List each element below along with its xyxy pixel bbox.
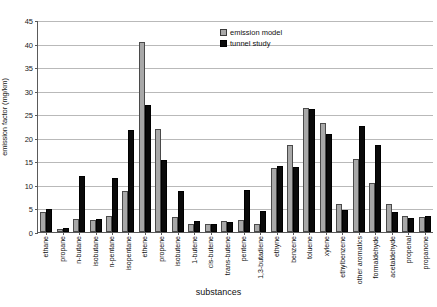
bar-group [400,21,416,232]
x-tick-label: benzene [289,236,296,263]
chart-legend: emission model tunnel study [220,27,282,49]
legend-swatch-icon [220,29,227,36]
bar-group [153,21,169,232]
x-tick-label: toluene [306,236,313,259]
legend-item-tunnel-study: tunnel study [220,38,282,49]
x-label-cell: other aromatics [351,236,368,286]
x-tick-label: n-pentane [108,236,115,268]
bar [293,167,299,232]
bar-group [104,21,120,232]
bar [211,224,217,232]
x-tick-label: cis-butene [207,236,214,268]
x-tick-mark [277,232,278,235]
bar-group [71,21,87,232]
x-label-cell: benzene [285,236,302,286]
x-tick-label: propenal [405,236,412,263]
x-tick-label: propene [157,236,164,262]
x-tick-mark [342,232,343,235]
bar [342,210,348,232]
y-tick-label: 15 [7,158,33,167]
bar [79,176,85,232]
bar [128,130,134,232]
bar [260,211,266,232]
bar-group [87,21,103,232]
bar-group [384,21,400,232]
x-label-cell: 1,3-butadiene [252,236,269,286]
x-label-cell: ethene [136,236,153,286]
bar-group [351,21,367,232]
x-tick-mark [145,232,146,235]
bar [425,216,431,232]
bar-group [334,21,350,232]
x-label-cell: ethane [37,236,54,286]
y-tick-label: 25 [7,111,33,120]
y-tick-label: 45 [7,17,33,26]
x-tick-mark [408,232,409,235]
bar [145,105,151,232]
x-tick-mark [425,232,426,235]
x-tick-mark [309,232,310,235]
x-tick-mark [359,232,360,235]
bar [392,212,398,232]
x-label-cell: n-butane [70,236,87,286]
legend-label: tunnel study [230,39,270,48]
x-tick-label: propanone [421,236,428,269]
bar-group [54,21,70,232]
y-tick-label: 0 [7,229,33,238]
x-tick-mark [63,232,64,235]
x-tick-mark [375,232,376,235]
y-tick-label: 30 [7,88,33,97]
x-label-cell: pentene [235,236,252,286]
x-label-cell: isopentane [120,236,137,286]
bar-group [416,21,432,232]
x-tick-label: ethane [42,236,49,257]
bar-group [301,21,317,232]
x-tick-label: xylene [322,236,329,256]
x-label-cell: ethylbenzene [334,236,351,286]
x-label-cell: propane [54,236,71,286]
bar [194,221,200,232]
bar [375,145,381,232]
y-tick-label: 5 [7,205,33,214]
bar-group [137,21,153,232]
x-tick-label: formaldehyde [372,236,379,278]
bar-chart: emission factor (mg/km) 0510152025303540… [0,0,437,307]
x-tick-mark [46,232,47,235]
x-label-cell: propenal [400,236,417,286]
bar-group [285,21,301,232]
bar [227,222,233,232]
x-tick-label: ethene [141,236,148,257]
bar [112,178,118,232]
x-tick-mark [326,232,327,235]
x-tick-label: isopentane [124,236,131,270]
y-tick-label: 35 [7,64,33,73]
x-label-cell: trans-butene [219,236,236,286]
x-tick-label: other aromatics [355,236,362,284]
bar-group [203,21,219,232]
bar [408,218,414,232]
bar [161,160,167,232]
x-tick-mark [260,232,261,235]
bar-group [252,21,268,232]
x-label-cell: isobutane [87,236,104,286]
x-tick-label: 1-butene [190,236,197,264]
bar [359,126,365,232]
x-tick-label: propane [58,236,65,262]
bar [96,219,102,232]
x-tick-label: 1,3-butadiene [256,236,263,279]
x-tick-label: acetaldehyde [388,236,395,278]
bar-group [219,21,235,232]
y-tick-label: 20 [7,135,33,144]
x-label-cell: propene [153,236,170,286]
bars-layer [38,21,433,232]
x-tick-mark [128,232,129,235]
x-tick-label: ethylbenzene [339,236,346,278]
x-label-cell: acetaldehyde [384,236,401,286]
legend-item-emission-model: emission model [220,27,282,38]
x-label-cell: 1-butene [186,236,203,286]
x-label-cell: isobutene [169,236,186,286]
x-tick-label: isobutane [91,236,98,266]
bar-group [170,21,186,232]
bar [46,209,52,232]
x-tick-mark [194,232,195,235]
